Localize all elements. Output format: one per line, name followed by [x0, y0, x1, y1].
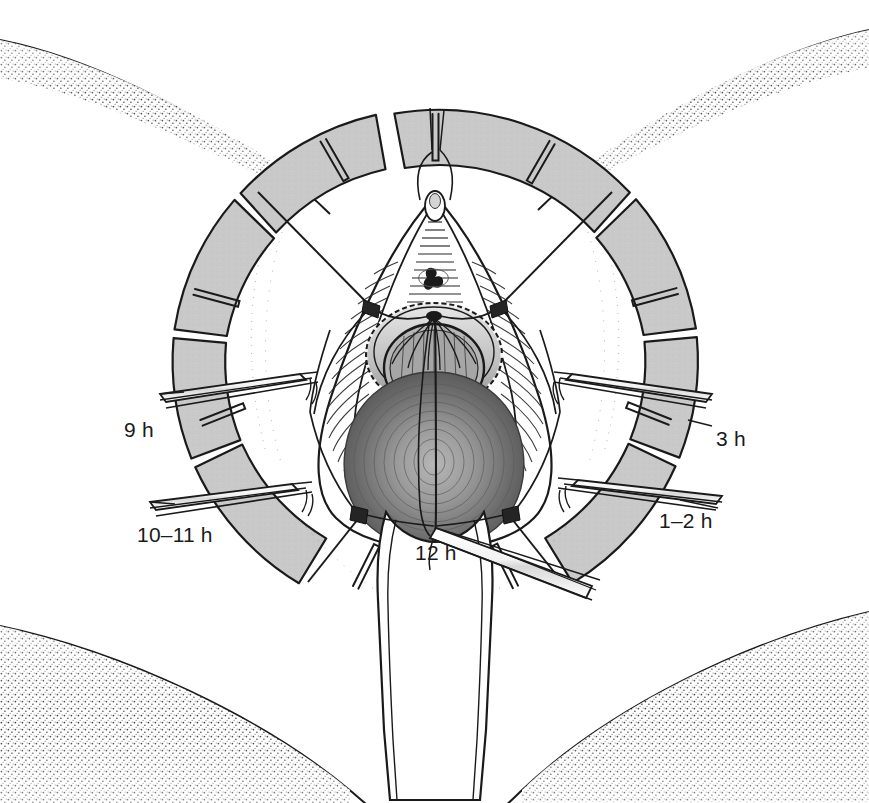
suture-12h-midline — [435, 318, 436, 534]
lower-right-buttock — [470, 602, 869, 803]
clock-label-1-2h: 1–2 h — [659, 510, 713, 531]
lower-left-buttock — [0, 616, 400, 803]
central-mass — [344, 372, 524, 550]
surgical-figure: 9 h 3 h 10–11 h 1–2 h 12 h — [0, 0, 869, 803]
clock-label-10-11h: 10–11 h — [137, 524, 213, 545]
clock-label-3h: 3 h — [716, 428, 746, 449]
illustration-canvas — [0, 0, 869, 803]
clock-label-9h: 9 h — [124, 419, 154, 440]
clock-label-12h: 12 h — [415, 542, 457, 563]
